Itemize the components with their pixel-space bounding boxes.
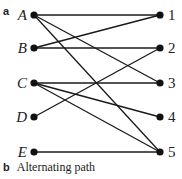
node-label-B: B bbox=[18, 40, 27, 56]
node-B bbox=[30, 44, 37, 51]
edge-C-4 bbox=[34, 83, 160, 117]
node-5 bbox=[156, 148, 163, 155]
node-label-5: 5 bbox=[168, 144, 176, 160]
node-label-C: C bbox=[17, 75, 28, 91]
node-1 bbox=[156, 11, 163, 18]
node-E bbox=[30, 148, 37, 155]
bipartite-graph: ABCDE12345 bbox=[0, 0, 182, 179]
node-C bbox=[30, 79, 37, 86]
panel-b-caption: b Alternating path bbox=[3, 160, 95, 175]
edges bbox=[34, 15, 160, 152]
edge-A-3 bbox=[34, 15, 160, 83]
caption-text: Alternating path bbox=[17, 160, 95, 174]
node-label-E: E bbox=[17, 144, 27, 160]
node-2 bbox=[156, 44, 163, 51]
node-label-3: 3 bbox=[168, 75, 176, 91]
node-A bbox=[30, 11, 37, 18]
node-D bbox=[30, 113, 37, 120]
edge-B-1 bbox=[34, 15, 160, 48]
node-label-1: 1 bbox=[168, 7, 176, 23]
node-4 bbox=[156, 113, 163, 120]
node-label-4: 4 bbox=[168, 109, 176, 125]
panel-b-label: b bbox=[3, 161, 10, 173]
node-label-A: A bbox=[17, 7, 28, 23]
node-label-D: D bbox=[15, 109, 27, 125]
node-label-2: 2 bbox=[168, 40, 176, 56]
node-3 bbox=[156, 79, 163, 86]
edge-C-5 bbox=[34, 83, 160, 152]
